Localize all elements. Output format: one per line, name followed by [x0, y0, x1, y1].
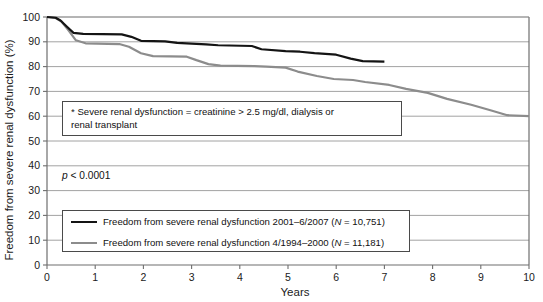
legend: Freedom from severe renal dysfunction 20…: [62, 210, 410, 252]
y-tick-label-90: 90: [28, 35, 40, 47]
legend-label-earlier-count: = 11,181): [341, 237, 384, 248]
survival-curve-figure: 0102030405060708090100 012345678910 Year…: [0, 0, 543, 302]
y-tick-label-50: 50: [28, 135, 40, 147]
x-tick-label-0: 0: [44, 271, 50, 283]
y-axis-title: Freedom from severe renal dysfunction (%…: [3, 39, 15, 260]
legend-item-recent: Freedom from severe renal dysfunction 20…: [63, 211, 409, 232]
x-tick-label-2: 2: [140, 271, 146, 283]
y-tick-labels: 0102030405060708090100: [22, 11, 40, 271]
legend-swatch-black: [71, 221, 97, 223]
y-tick-label-60: 60: [28, 110, 40, 122]
x-tick-label-8: 8: [430, 271, 436, 283]
x-tick-label-7: 7: [381, 271, 387, 283]
footnote-line-2: renal transplant: [71, 119, 393, 132]
p-value-comparison: < 0.0001: [68, 170, 111, 181]
x-tick-label-6: 6: [333, 271, 339, 283]
y-tick-label-40: 40: [28, 159, 40, 171]
p-value-annotation: p < 0.0001: [62, 165, 110, 183]
x-tick-label-3: 3: [189, 271, 195, 283]
legend-label-earlier: Freedom from severe renal dysfunction 4/…: [103, 237, 384, 248]
legend-swatch-gray: [71, 242, 97, 244]
x-tick-label-10: 10: [523, 271, 535, 283]
x-tick-label-1: 1: [92, 271, 98, 283]
y-tick-label-70: 70: [28, 85, 40, 97]
footnote-box: * Severe renal dysfunction = creatinine …: [62, 101, 402, 136]
footnote-line-1: * Severe renal dysfunction = creatinine …: [71, 106, 393, 119]
y-tick-label-30: 30: [28, 184, 40, 196]
p-value-text: p < 0.0001: [62, 170, 110, 181]
x-tick-label-9: 9: [478, 271, 484, 283]
y-tick-label-0: 0: [34, 259, 40, 271]
y-tick-label-80: 80: [28, 60, 40, 72]
y-tick-label-20: 20: [28, 209, 40, 221]
y-tick-label-10: 10: [28, 234, 40, 246]
x-axis-title: Years: [281, 286, 310, 298]
x-tick-label-5: 5: [285, 271, 291, 283]
legend-label-recent: Freedom from severe renal dysfunction 20…: [103, 216, 385, 227]
legend-label-earlier-text: Freedom from severe renal dysfunction 4/…: [103, 237, 334, 248]
y-tick-label-100: 100: [22, 11, 40, 23]
chart-canvas: 0102030405060708090100 012345678910 Year…: [0, 0, 543, 302]
legend-item-earlier: Freedom from severe renal dysfunction 4/…: [63, 232, 409, 253]
series-line-0: [47, 17, 384, 62]
x-tick-labels: 012345678910: [44, 271, 535, 283]
legend-label-recent-count: = 10,751): [341, 216, 384, 227]
legend-label-recent-text: Freedom from severe renal dysfunction 20…: [103, 216, 334, 227]
x-tick-label-4: 4: [237, 271, 243, 283]
